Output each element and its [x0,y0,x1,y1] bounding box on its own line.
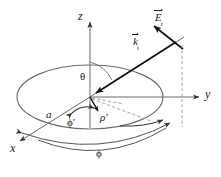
radius-a-label: a [46,109,52,120]
rho-prime-label: ρ′ [100,112,108,123]
phi-prime-arc [72,107,94,113]
x-axis-line [20,97,90,141]
y-axis-label: y [205,88,210,100]
E-field-label: Ei [155,12,164,26]
phi-outer-arc [38,128,166,151]
x-axis-label: x [10,142,15,154]
physics-diagram: z y x θ a ϕ′ ρ′ ϕ Ei ki [0,0,221,177]
z-axis-label: z [78,10,83,22]
E-field-subscript: i [161,20,163,27]
rho-prime-guide-dashed [92,98,124,104]
diagram-canvas [0,0,221,177]
E-field-arrow [154,26,183,49]
phi-label: ϕ [96,148,102,159]
k-vector-label: ki [133,36,140,50]
k-vector-subscript: i [137,44,139,51]
phi-prime-label: ϕ′ [67,117,75,128]
theta-label: θ [80,71,85,82]
rho-prime-arrow [90,97,98,111]
